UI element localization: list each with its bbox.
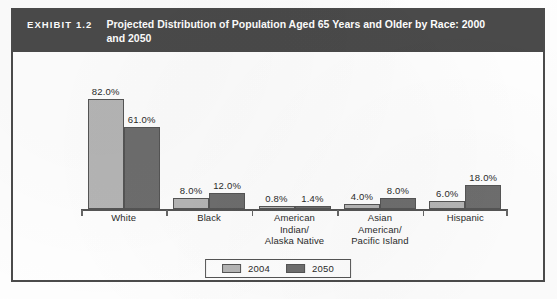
- exhibit-number: EXHIBIT 1.2: [27, 17, 92, 31]
- bar-group: 8.0%12.0%: [173, 193, 245, 209]
- category-label-line: Hispanic: [417, 212, 514, 224]
- legend-item-2050[interactable]: 2050: [286, 263, 334, 274]
- bar-series-2050[interactable]: 18.0%: [465, 185, 501, 209]
- bar-series-2004[interactable]: 8.0%: [173, 198, 209, 209]
- category-label-line: American: [246, 212, 343, 224]
- bar-rect[interactable]: [429, 201, 465, 209]
- bar-group: 6.0%18.0%: [429, 185, 501, 209]
- bar-value-label: 1.4%: [301, 193, 323, 204]
- exhibit-title: Projected Distribution of Population Age…: [106, 17, 506, 45]
- bar-series-2004[interactable]: 82.0%: [88, 99, 124, 209]
- bar-rect[interactable]: [380, 198, 416, 209]
- bar-series-2004[interactable]: 4.0%: [344, 204, 380, 209]
- bar-series-2050[interactable]: 61.0%: [124, 127, 160, 209]
- category-label-line: Asian: [331, 212, 428, 224]
- bar-series-2004[interactable]: 0.8%: [259, 206, 295, 209]
- category-label-line: Pacific Island: [331, 235, 428, 247]
- legend-item-2004[interactable]: 2004: [222, 263, 270, 274]
- exhibit-header: EXHIBIT 1.2 Projected Distribution of Po…: [13, 10, 543, 52]
- bar-series-2050[interactable]: 1.4%: [295, 206, 331, 209]
- category-label-line: American/: [331, 224, 428, 236]
- bar-value-label: 6.0%: [436, 188, 458, 199]
- chart-legend: 20042050: [205, 259, 351, 278]
- legend-swatch: [286, 264, 305, 273]
- legend-label: 2004: [248, 263, 270, 274]
- bar-value-label: 4.0%: [351, 191, 373, 202]
- category-label-line: White: [75, 212, 172, 224]
- category-label: AmericanIndian/Alaska Native: [246, 212, 343, 247]
- legend-swatch: [222, 264, 241, 273]
- bar-series-2050[interactable]: 12.0%: [209, 193, 245, 209]
- x-axis-line: [81, 209, 508, 211]
- bar-rect[interactable]: [465, 185, 501, 209]
- bar-rect[interactable]: [259, 206, 295, 209]
- plot-area: 82.0%61.0%8.0%12.0%0.8%1.4%4.0%8.0%6.0%1…: [81, 68, 508, 211]
- category-label-line: Black: [160, 212, 257, 224]
- scanned-page: EXHIBIT 1.2 Projected Distribution of Po…: [0, 0, 557, 299]
- bar-series-2004[interactable]: 6.0%: [429, 201, 465, 209]
- category-label: AsianAmerican/Pacific Island: [331, 212, 428, 247]
- category-label-line: Indian/: [246, 224, 343, 236]
- bar-value-label: 8.0%: [387, 185, 409, 196]
- category-label: Black: [160, 212, 257, 224]
- bar-value-label: 0.8%: [265, 193, 287, 204]
- bar-value-label: 82.0%: [92, 86, 120, 97]
- bar-value-label: 61.0%: [128, 114, 156, 125]
- category-label-line: Alaska Native: [246, 235, 343, 247]
- bar-group: 0.8%1.4%: [259, 206, 331, 209]
- category-label: Hispanic: [417, 212, 514, 224]
- bar-series-2050[interactable]: 8.0%: [380, 198, 416, 209]
- category-label: White: [75, 212, 172, 224]
- bar-rect[interactable]: [88, 99, 124, 209]
- bar-group: 4.0%8.0%: [344, 198, 416, 209]
- bar-group: 82.0%61.0%: [88, 99, 160, 209]
- bar-rect[interactable]: [124, 127, 160, 209]
- bar-rect[interactable]: [209, 193, 245, 209]
- bar-value-label: 18.0%: [469, 172, 497, 183]
- bar-rect[interactable]: [344, 204, 380, 209]
- exhibit-frame: EXHIBIT 1.2 Projected Distribution of Po…: [11, 8, 545, 282]
- bar-rect[interactable]: [295, 206, 331, 209]
- chart-area: 82.0%61.0%8.0%12.0%0.8%1.4%4.0%8.0%6.0%1…: [13, 52, 543, 280]
- bar-value-label: 12.0%: [213, 180, 241, 191]
- bar-value-label: 8.0%: [180, 185, 202, 196]
- legend-label: 2050: [312, 263, 334, 274]
- bar-rect[interactable]: [173, 198, 209, 209]
